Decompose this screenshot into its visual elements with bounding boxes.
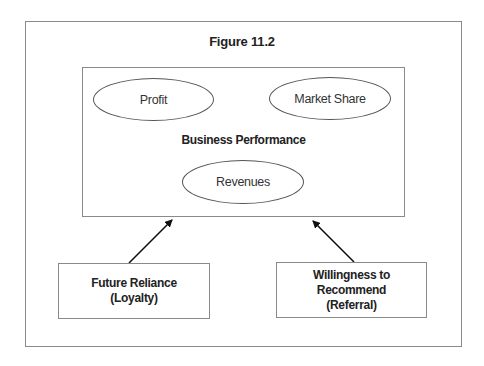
referral-arrow (313, 221, 354, 262)
willingness-to-recommend-box: Willingness to Recommend (Referral) (276, 262, 427, 318)
referral-label: (Referral) (326, 298, 376, 313)
willingness-to-recommend-label: Willingness to Recommend (277, 268, 426, 298)
future-reliance-label: Future Reliance (91, 276, 177, 291)
loyalty-label: (Loyalty) (110, 291, 157, 306)
future-reliance-box: Future Reliance (Loyalty) (58, 263, 210, 319)
loyalty-arrow (129, 220, 172, 263)
